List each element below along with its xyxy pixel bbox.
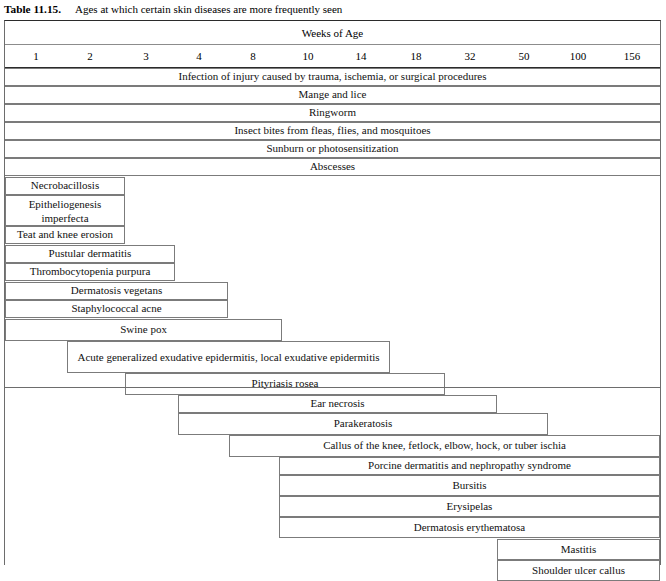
- disease-bar-label: Callus of the knee, fetlock, elbow, hock…: [230, 439, 659, 453]
- table-row: Thrombocytopenia purpura: [5, 263, 660, 281]
- table-row: Swine pox: [5, 319, 660, 341]
- disease-bar: Staphylococcal acne: [5, 300, 228, 318]
- disease-bar: Parakeratosis: [178, 413, 548, 435]
- table-caption-label: Table 11.15.: [4, 3, 61, 15]
- disease-bar-label: Sunburn or photosensitization: [5, 142, 660, 156]
- disease-bar-label: Bursitis: [280, 479, 659, 493]
- table-row: Pityriasis rosea: [5, 373, 660, 395]
- table-row: Parakeratosis: [5, 413, 660, 435]
- disease-bar-label: Ringworm: [5, 106, 660, 120]
- disease-bar-label: Thrombocytopenia purpura: [6, 265, 174, 279]
- disease-bar: Infection of injury caused by trauma, is…: [5, 68, 660, 86]
- table-row: Infection of injury caused by trauma, is…: [5, 68, 660, 86]
- table-caption: Table 11.15.Ages at which certain skin d…: [4, 2, 604, 18]
- disease-bar: Abscesses: [5, 158, 660, 176]
- age-tick-100: 100: [558, 45, 598, 67]
- table-row: Mange and lice: [5, 86, 660, 104]
- age-scale-row: 123481014183250100156: [5, 45, 660, 68]
- age-tick-32: 32: [450, 45, 490, 67]
- disease-bar-label: Mange and lice: [5, 88, 660, 102]
- table-row: Shoulder ulcer callus: [5, 560, 660, 581]
- disease-bar-label: Dermatosis erythematosa: [280, 521, 659, 535]
- table-row: Ringworm: [5, 104, 660, 122]
- disease-bar: Erysipelas: [279, 496, 660, 517]
- disease-bar-label: Epitheliogenesis imperfecta: [6, 197, 124, 225]
- disease-bar-label: Abscesses: [5, 160, 660, 174]
- table-row: Insect bites from fleas, flies, and mosq…: [5, 122, 660, 140]
- disease-bar: Bursitis: [279, 475, 660, 496]
- age-tick-50: 50: [504, 45, 544, 67]
- disease-bar: Thrombocytopenia purpura: [5, 263, 175, 281]
- disease-bar: Acute generalized exudative epidermitis,…: [67, 341, 390, 373]
- age-tick-8: 8: [233, 45, 273, 67]
- table-row: Abscesses: [5, 158, 660, 176]
- table-row: Epitheliogenesis imperfecta: [5, 195, 660, 226]
- disease-bar-label: Insect bites from fleas, flies, and mosq…: [5, 124, 660, 138]
- disease-bar-label: Infection of injury caused by trauma, is…: [5, 70, 660, 84]
- disease-bar-label: Shoulder ulcer callus: [498, 564, 659, 578]
- table-row: Bursitis: [5, 475, 660, 496]
- disease-bar-label: Dermatosis vegetans: [6, 284, 227, 298]
- age-tick-1: 1: [16, 45, 56, 67]
- table-row: Mastitis: [5, 539, 660, 560]
- disease-bar-label: Necrobacillosis: [6, 179, 124, 193]
- disease-bar: Callus of the knee, fetlock, elbow, hock…: [229, 435, 660, 457]
- disease-bar: Necrobacillosis: [5, 177, 125, 195]
- disease-bar-label: Pityriasis rosea: [126, 377, 444, 391]
- disease-bar: Epitheliogenesis imperfecta: [5, 195, 125, 226]
- disease-bar: Ringworm: [5, 104, 660, 122]
- disease-bar-label: Ear necrosis: [179, 397, 496, 411]
- weeks-of-age-header: Weeks of Age: [5, 21, 660, 45]
- disease-bar: Mange and lice: [5, 86, 660, 104]
- disease-bar: Teat and knee erosion: [5, 226, 125, 244]
- disease-rows: Infection of injury caused by trauma, is…: [5, 68, 660, 565]
- disease-bar: Pustular dermatitis: [5, 245, 175, 263]
- age-tick-156: 156: [612, 45, 652, 67]
- table-row: Necrobacillosis: [5, 177, 660, 195]
- disease-bar: Ear necrosis: [178, 395, 497, 413]
- disease-bar-label: Staphylococcal acne: [6, 302, 227, 316]
- disease-bar: Swine pox: [5, 319, 282, 341]
- table-row: Teat and knee erosion: [5, 226, 660, 244]
- disease-bar-label: Pustular dermatitis: [6, 247, 174, 261]
- table-row: Ear necrosis: [5, 395, 660, 413]
- disease-bar: Shoulder ulcer callus: [497, 560, 660, 581]
- disease-bar: Dermatosis erythematosa: [279, 517, 660, 538]
- disease-bar-label: Parakeratosis: [179, 417, 547, 431]
- table-row: Porcine dermatitis and nephropathy syndr…: [5, 457, 660, 475]
- disease-bar-label: Mastitis: [498, 543, 659, 557]
- age-tick-4: 4: [179, 45, 219, 67]
- disease-bar-label: Porcine dermatitis and nephropathy syndr…: [280, 459, 659, 473]
- disease-bar: Mastitis: [497, 539, 660, 560]
- disease-bar-label: Swine pox: [6, 323, 281, 337]
- disease-bar: Insect bites from fleas, flies, and mosq…: [5, 122, 660, 140]
- age-tick-10: 10: [288, 45, 328, 67]
- table-row: Staphylococcal acne: [5, 300, 660, 318]
- disease-bar: Dermatosis vegetans: [5, 282, 228, 300]
- table-row: Pustular dermatitis: [5, 245, 660, 263]
- table-row: Dermatosis erythematosa: [5, 517, 660, 538]
- table-caption-text: Ages at which certain skin diseases are …: [61, 3, 342, 15]
- age-tick-18: 18: [396, 45, 436, 67]
- table-row: Sunburn or photosensitization: [5, 140, 660, 158]
- table-row: Dermatosis vegetans: [5, 282, 660, 300]
- table-row: Acute generalized exudative epidermitis,…: [5, 341, 660, 373]
- table-row: Callus of the knee, fetlock, elbow, hock…: [5, 435, 660, 457]
- table-bottom-edge: [5, 387, 660, 388]
- skin-disease-age-table: Weeks of Age 123481014183250100156 Infec…: [4, 20, 661, 565]
- disease-bar-label: Erysipelas: [280, 500, 659, 514]
- table-row: Erysipelas: [5, 496, 660, 517]
- age-tick-14: 14: [341, 45, 381, 67]
- disease-bar: Porcine dermatitis and nephropathy syndr…: [279, 457, 660, 475]
- disease-bar: Pityriasis rosea: [125, 373, 445, 395]
- disease-bar: Sunburn or photosensitization: [5, 140, 660, 158]
- disease-bar-label: Teat and knee erosion: [6, 228, 124, 242]
- age-tick-2: 2: [70, 45, 110, 67]
- disease-bar-label: Acute generalized exudative epidermitis,…: [68, 350, 389, 364]
- age-tick-3: 3: [126, 45, 166, 67]
